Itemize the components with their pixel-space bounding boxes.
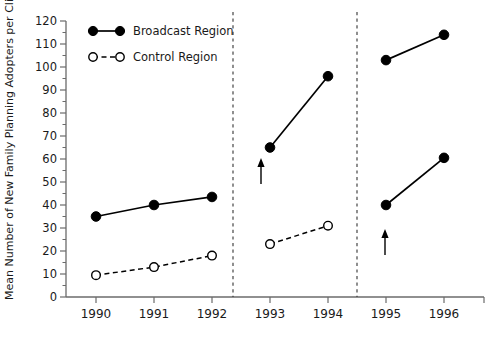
chart-svg: Mean Number of New Family Planning Adopt…: [0, 0, 492, 343]
y-axis-ticks: 0102030405060708090100110120: [35, 14, 66, 304]
y-tick-label: 40: [42, 198, 57, 212]
legend-label-control-region: Control Region: [133, 50, 218, 64]
data-point: [265, 143, 275, 153]
data-point: [149, 200, 159, 210]
chart-container: Mean Number of New Family Planning Adopt…: [0, 0, 492, 343]
y-tick-label: 50: [42, 175, 57, 189]
data-point: [150, 263, 159, 272]
series-line: [270, 226, 328, 244]
panel-1990-1992: [91, 192, 217, 279]
legend-marker-filled-circle: [88, 26, 97, 35]
series-broadcast-region: [381, 30, 449, 65]
legend: Broadcast Region Control Region: [88, 24, 233, 64]
annotation-arrow-1995: [381, 229, 388, 255]
data-point: [439, 30, 449, 40]
x-tick-label-1996: 1996: [429, 307, 460, 321]
y-tick-label: 70: [42, 129, 57, 143]
data-series-group: [91, 30, 449, 279]
x-tick-label-1990: 1990: [81, 307, 112, 321]
y-tick-label: 120: [35, 14, 57, 28]
annotation-arrow-1993: [257, 158, 264, 184]
data-point: [324, 221, 333, 230]
series-control-region: [92, 251, 217, 279]
data-point: [439, 153, 449, 163]
y-tick-label: 110: [35, 37, 57, 51]
series-broadcast-region: [265, 71, 333, 152]
data-point: [381, 200, 391, 210]
x-tick-label-1994: 1994: [313, 307, 344, 321]
y-tick-label: 10: [42, 267, 57, 281]
x-axis-ticks: 1990199119921993199419951996: [81, 297, 484, 321]
x-tick-label-1995: 1995: [371, 307, 402, 321]
y-axis-label: Mean Number of New Family Planning Adopt…: [3, 0, 16, 300]
y-tick-label: 0: [50, 290, 57, 304]
x-tick-label-1993: 1993: [255, 307, 286, 321]
y-tick-label: 30: [42, 221, 57, 235]
data-point: [208, 251, 217, 260]
x-tick-label-1991: 1991: [139, 307, 170, 321]
y-tick-label: 90: [42, 83, 57, 97]
series-control-region: [266, 221, 333, 248]
data-point: [266, 240, 275, 249]
data-point: [207, 192, 217, 202]
data-point: [323, 71, 333, 81]
y-tick-label: 20: [42, 244, 57, 258]
series-line: [386, 35, 444, 60]
series-control-region: [381, 153, 449, 210]
panel-1993-1994: [265, 71, 333, 248]
y-tick-label: 60: [42, 152, 57, 166]
y-tick-label: 100: [35, 60, 57, 74]
series-broadcast-region: [91, 192, 217, 221]
y-tick-label: 80: [42, 106, 57, 120]
data-point: [92, 271, 101, 280]
x-tick-label-1992: 1992: [197, 307, 228, 321]
legend-marker-open-circle: [116, 53, 124, 61]
legend-marker-open-circle: [89, 53, 97, 61]
panel-1995-1996: [381, 30, 449, 210]
data-point: [91, 212, 101, 222]
legend-marker-filled-circle: [115, 26, 124, 35]
data-point: [381, 55, 391, 65]
legend-item-control-region: Control Region: [89, 50, 218, 64]
legend-item-broadcast-region: Broadcast Region: [88, 24, 233, 38]
series-line: [386, 158, 444, 205]
legend-label-broadcast-region: Broadcast Region: [133, 24, 234, 38]
series-line: [270, 76, 328, 147]
